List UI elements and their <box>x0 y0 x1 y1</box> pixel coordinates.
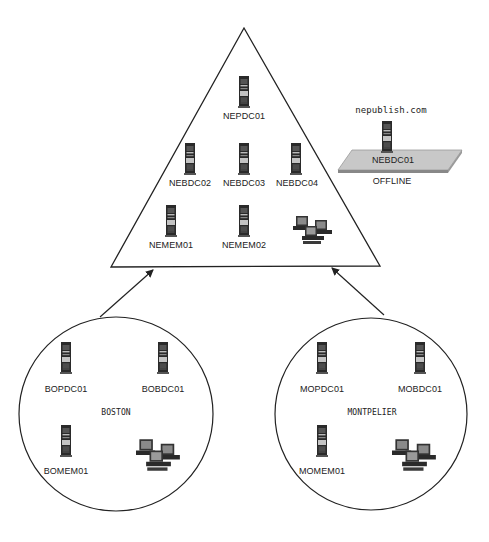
workstation-group-icon <box>136 439 180 471</box>
server-label-nemem01: NEMEM01 <box>149 240 193 250</box>
site-name-montpelier: MONTPELIER <box>347 408 396 417</box>
server-label-bomem01: BOMEM01 <box>44 466 89 476</box>
workstation-group-icon <box>293 216 332 244</box>
server-label-nepdc01: NEPDC01 <box>223 111 265 121</box>
server-icon <box>316 425 328 457</box>
boston-arrow <box>100 270 153 317</box>
server-icon <box>238 143 250 175</box>
server-label-momem01: MOMEM01 <box>299 466 345 476</box>
server-icon <box>157 342 169 374</box>
offline-status-label: OFFLINE <box>373 176 412 186</box>
server-icon <box>165 205 177 237</box>
server-icon <box>381 121 393 153</box>
server-label-nebdc03: NEBDC03 <box>223 178 265 188</box>
server-icon <box>316 342 328 374</box>
server-icon <box>414 342 426 374</box>
server-icon <box>184 143 196 175</box>
server-label-nebdc04: NEBDC04 <box>276 178 318 188</box>
site-name-boston: BOSTON <box>101 408 131 417</box>
server-label-bobdc01: BOBDC01 <box>142 384 185 394</box>
server-icon <box>290 143 302 175</box>
diagram-shapes <box>0 0 489 542</box>
server-icon <box>238 76 250 108</box>
network-diagram: NEPDC01 NEBDC02 NEBDC03 NEBDC04 NEMEM01 … <box>0 0 489 542</box>
montpelier-arrow <box>332 268 384 315</box>
workstation-group-icon <box>392 439 436 471</box>
server-icon <box>60 425 72 457</box>
server-label-mobdc01: MOBDC01 <box>398 384 442 394</box>
server-label-bopdc01: BOPDC01 <box>45 384 88 394</box>
server-label-nebdc02: NEBDC02 <box>169 178 211 188</box>
offline-domain-label: nepublish.com <box>355 105 427 115</box>
server-label-nemem02: NEMEM02 <box>222 240 266 250</box>
server-icon <box>238 205 250 237</box>
server-label-mopdc01: MOPDC01 <box>300 384 344 394</box>
server-label-offline-nebdc01: NEBDC01 <box>372 155 414 165</box>
server-icon <box>60 342 72 374</box>
